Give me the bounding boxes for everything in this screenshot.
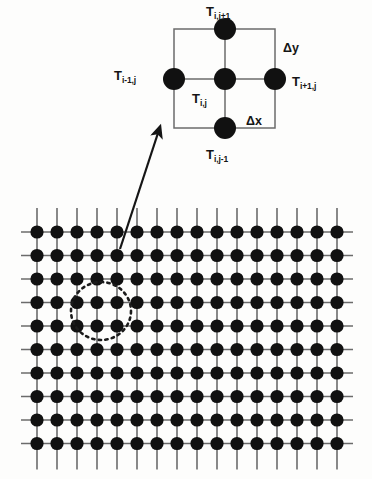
- label-T-i-j-plus-1: Ti,j+1: [206, 5, 230, 18]
- label-base: T: [114, 68, 122, 83]
- label-T-i-j-minus-1: Ti,j-1: [206, 148, 228, 161]
- label-delta-y: Δy: [283, 42, 299, 55]
- label-subscript: i,j-1: [214, 154, 228, 164]
- label-base: T: [292, 74, 300, 89]
- label-subscript: i,j+1: [214, 11, 230, 21]
- label-T-i-minus-1-j: Ti-1,j: [114, 69, 136, 82]
- label-subscript: i+1,j: [300, 81, 316, 91]
- label-T-i-plus-1-j: Ti+1,j: [292, 75, 316, 88]
- label-delta-x: Δx: [246, 115, 262, 128]
- stencil-highlight-ellipse: [71, 282, 131, 340]
- label-base: T: [206, 4, 214, 19]
- figure-geometry: [0, 0, 372, 479]
- label-subscript: i,j: [200, 98, 207, 108]
- figure-canvas: Ti,j+1 Ti,j-1 Ti-1,j Ti+1,j Ti,j Δy Δx: [0, 0, 372, 479]
- stencil-nodes: [163, 18, 286, 139]
- label-base: T: [206, 147, 214, 162]
- lattice-gridlines: [21, 208, 353, 470]
- label-subscript: i-1,j: [122, 75, 136, 85]
- label-T-i-j: Ti,j: [192, 92, 207, 105]
- label-base: T: [192, 91, 200, 106]
